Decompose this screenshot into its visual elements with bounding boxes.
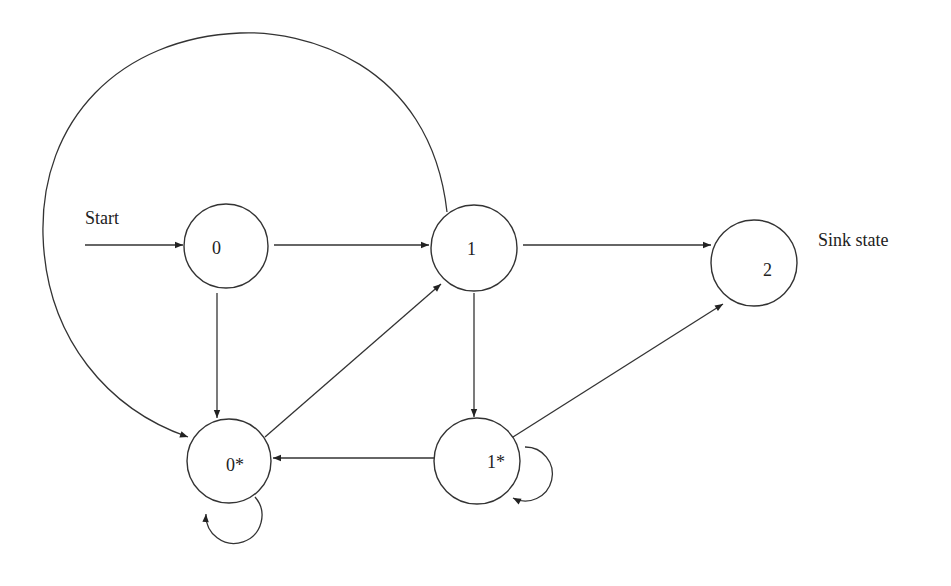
- start-label: Start: [85, 208, 119, 228]
- state-0-label: 0: [212, 238, 221, 258]
- edge-1star-to-2: [513, 304, 723, 437]
- edge-0star-to-1: [265, 284, 441, 437]
- state-1star-label: 1*: [487, 452, 505, 472]
- state-1star: 1*: [434, 418, 520, 504]
- state-2: 2: [711, 220, 797, 306]
- state-diagram: 0 1 2 0* 1* Start Sink state: [0, 0, 951, 586]
- state-0star-label: 0*: [226, 455, 244, 475]
- state-1-label: 1: [467, 239, 476, 259]
- sink-state-label: Sink state: [818, 230, 889, 250]
- state-1: 1: [431, 205, 517, 291]
- state-0star: 0*: [187, 419, 271, 503]
- state-0: 0: [184, 204, 268, 288]
- edge-0star-self-loop: [206, 497, 262, 543]
- state-2-label: 2: [763, 260, 772, 280]
